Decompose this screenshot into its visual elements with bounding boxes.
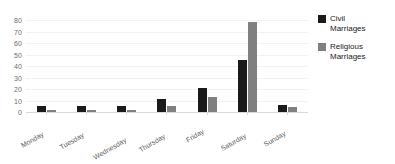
x-tick [66, 112, 106, 115]
x-tick-mark [86, 112, 87, 115]
bar-group [187, 20, 227, 112]
x-tick [268, 112, 308, 115]
y-tick-label: 0 [18, 109, 22, 116]
x-label-cell: Friday [187, 116, 227, 162]
x-tick-label: Sunday [283, 118, 308, 137]
bar-civil[interactable] [157, 99, 166, 112]
bar-civil[interactable] [238, 60, 247, 112]
bars-layer [26, 20, 308, 112]
x-tick [26, 112, 66, 115]
x-label-cell: Thursday [147, 116, 187, 162]
x-tick-mark [46, 112, 47, 115]
bar-religious[interactable] [248, 22, 257, 112]
legend-label: Civil Marriages [330, 14, 366, 33]
x-tick-mark [126, 112, 127, 115]
y-tick-label: 60 [14, 40, 22, 47]
x-axis-labels: MondayTuesdayWednesdayThursdayFridaySatu… [26, 116, 308, 162]
x-tick [147, 112, 187, 115]
x-label-cell: Sunday [268, 116, 308, 162]
y-axis: 01020304050607080 [0, 20, 22, 112]
x-label-cell: Wednesday [107, 116, 147, 162]
x-tick-mark [247, 112, 248, 115]
x-tick-label-text: Friday [185, 128, 206, 145]
religious-swatch-icon [318, 43, 326, 51]
y-tick-label: 30 [14, 74, 22, 81]
bar-civil[interactable] [198, 88, 207, 112]
x-label-cell: Monday [26, 116, 66, 162]
legend: Civil MarriagesReligious Marriages [318, 14, 392, 70]
bar-group [66, 20, 106, 112]
x-label-cell: Saturday [227, 116, 267, 162]
x-tick-label: Tuesday [82, 118, 109, 138]
y-tick-label: 80 [14, 17, 22, 24]
x-tick-mark [287, 112, 288, 115]
x-axis-ticks [26, 112, 308, 115]
bar-group [26, 20, 66, 112]
bar-religious[interactable] [208, 97, 217, 112]
legend-label: Religious Marriages [330, 42, 366, 61]
bar-group [147, 20, 187, 112]
y-tick-label: 10 [14, 97, 22, 104]
bar-civil[interactable] [278, 105, 287, 112]
x-tick-mark [166, 112, 167, 115]
x-tick [187, 112, 227, 115]
x-tick-mark [207, 112, 208, 115]
y-tick-label: 40 [14, 63, 22, 70]
y-tick-label: 50 [14, 51, 22, 58]
civil-swatch-icon [318, 15, 326, 23]
x-tick-label: Friday [202, 118, 223, 135]
y-tick-label: 20 [14, 86, 22, 93]
legend-entry[interactable]: Civil Marriages [318, 14, 392, 33]
x-tick [107, 112, 147, 115]
x-tick-label: Monday [41, 118, 67, 137]
bar-group [107, 20, 147, 112]
legend-entry[interactable]: Religious Marriages [318, 42, 392, 61]
bar-group [227, 20, 267, 112]
x-tick-label-text: Monday [20, 130, 46, 149]
x-tick [227, 112, 267, 115]
bar-group [268, 20, 308, 112]
bar-chart: 01020304050607080 MondayTuesdayWednesday… [0, 0, 395, 164]
y-tick-label: 70 [14, 28, 22, 35]
